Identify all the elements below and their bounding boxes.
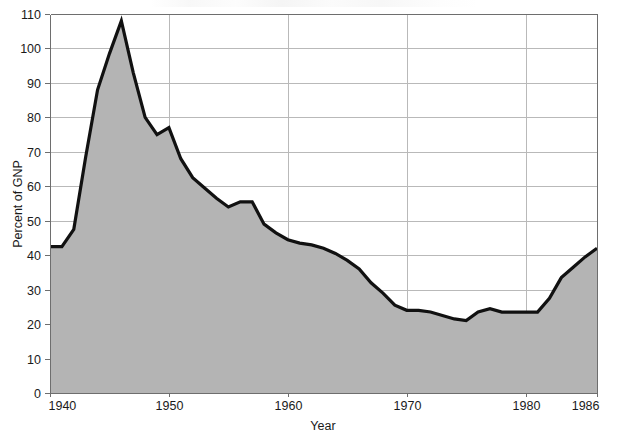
x-axis-ticks: 194019501960197019801986: [49, 393, 600, 413]
x-tick-label: 1950: [156, 399, 184, 413]
gnp-debt-area-chart: 0102030405060708090100110 19401950196019…: [0, 0, 621, 436]
y-tick-label: 40: [27, 249, 41, 263]
x-tick-label: 1940: [49, 399, 77, 413]
x-tick-label: 1960: [275, 399, 303, 413]
y-tick-label: 10: [27, 353, 41, 367]
x-tick-label: 1986: [572, 399, 600, 413]
y-tick-label: 60: [27, 180, 41, 194]
y-tick-label: 20: [27, 318, 41, 332]
y-axis-title: Percent of GNP: [11, 160, 25, 248]
x-tick-label: 1980: [513, 399, 541, 413]
y-tick-label: 90: [27, 77, 41, 91]
chart-container: 0102030405060708090100110 19401950196019…: [0, 0, 621, 436]
y-tick-label: 0: [34, 387, 41, 401]
y-tick-label: 50: [27, 215, 41, 229]
y-tick-label: 100: [20, 42, 41, 56]
x-tick-label: 1970: [394, 399, 422, 413]
y-tick-label: 80: [27, 111, 41, 125]
x-axis-title: Year: [310, 419, 335, 433]
y-tick-label: 30: [27, 284, 41, 298]
scan-artifact-top: [150, 0, 480, 7]
y-tick-label: 70: [27, 146, 41, 160]
y-tick-label: 110: [21, 8, 41, 22]
